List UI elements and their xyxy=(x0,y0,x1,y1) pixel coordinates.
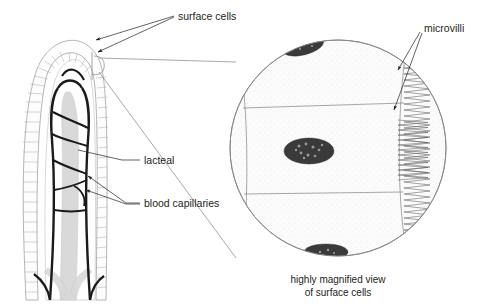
cell-bottom-edge xyxy=(236,252,244,258)
cell-top-edge xyxy=(232,62,240,67)
villus-structure xyxy=(23,40,108,300)
label-lacteal: lacteal xyxy=(144,154,174,166)
villus-diagram-figure: surface cells lacteal blood capillaries … xyxy=(0,0,477,308)
leader-surface-cells-2 xyxy=(98,17,174,52)
label-blood-capillaries: blood capillaries xyxy=(144,197,219,209)
cell-nucleus-middle xyxy=(284,138,334,164)
cell-nucleus-bottom xyxy=(304,244,348,260)
caption-line-1: highly magnified view xyxy=(290,274,386,285)
label-surface-cells: surface cells xyxy=(178,10,236,22)
leader-surface-cells-1 xyxy=(96,16,174,40)
magnified-view-texture xyxy=(230,40,446,256)
caption-line-2: of surface cells xyxy=(305,287,372,298)
leader-microvilli-1 xyxy=(398,32,420,70)
mag-leader-top xyxy=(99,58,236,62)
leader-blood-capillaries-1 xyxy=(88,176,140,203)
magnified-view-inset xyxy=(230,32,446,260)
label-microvilli: microvilli xyxy=(424,22,464,34)
